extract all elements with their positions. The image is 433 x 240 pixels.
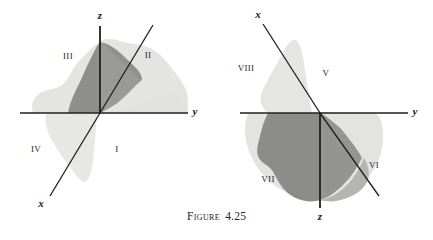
right-diagram-group: x y z V VI VII VIII <box>238 8 418 222</box>
figure-caption-word: Figure <box>187 210 220 222</box>
left-octant-label-i: I <box>115 144 118 154</box>
left-axis-label-z: z <box>97 9 103 21</box>
right-octant-label-viii: VIII <box>238 63 255 73</box>
right-axis-label-x: x <box>254 8 261 20</box>
left-octant-label-iv: IV <box>31 144 41 154</box>
figure-illustration: z y x I II III IV <box>0 0 433 240</box>
left-axis-label-x: x <box>37 197 44 209</box>
right-axis-label-y: y <box>411 105 418 117</box>
right-octant-label-v: V <box>323 68 330 78</box>
right-blob-dark-region <box>257 113 320 201</box>
left-octant-label-ii: II <box>145 50 152 60</box>
left-diagram-group: z y x I II III IV <box>20 9 198 209</box>
figure-caption-number: 4.25 <box>225 210 246 222</box>
figure-page: z y x I II III IV <box>0 0 433 240</box>
left-blob-light-lower-region <box>45 113 98 182</box>
right-octant-label-vi: VI <box>369 160 379 170</box>
left-axis-label-y: y <box>191 105 198 117</box>
right-blob-light-region <box>260 40 312 113</box>
figure-caption: Figure4.25 <box>0 210 433 222</box>
left-octant-label-iii: III <box>63 51 73 61</box>
right-octant-label-vii: VII <box>261 174 274 184</box>
